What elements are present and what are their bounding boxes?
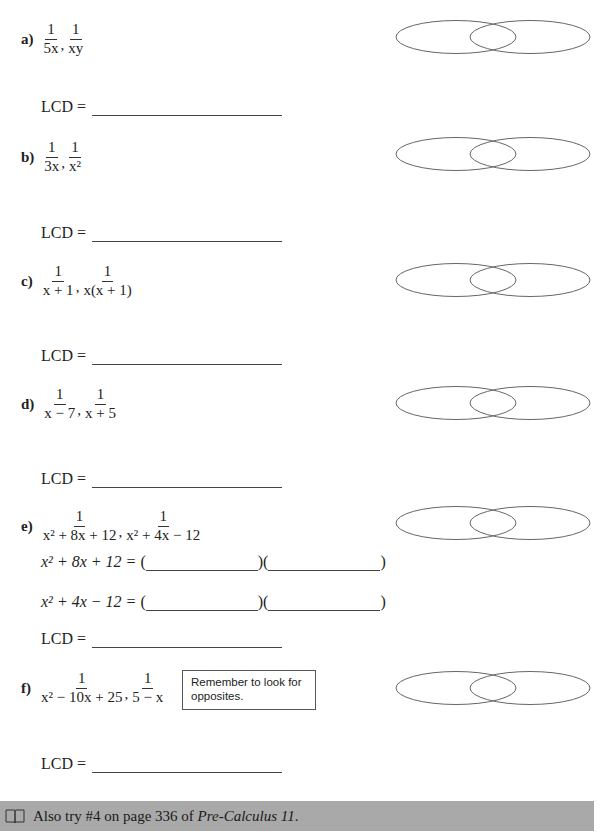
fraction: 1 x − 7 [42, 387, 77, 422]
numerator: 1 [76, 671, 88, 689]
numerator: 1 [69, 140, 81, 158]
problem-a: a) 1 5x , 1 xy [21, 22, 85, 57]
factor-expression: x² + 4x − 12 = [41, 593, 136, 611]
venn-diagram-b [393, 136, 593, 172]
book-title: Pre-Calculus 11 [198, 808, 295, 824]
comma: , [124, 686, 128, 703]
problem-label: e) [21, 518, 33, 535]
factor-blank-1[interactable] [146, 596, 258, 611]
close-paren: ) [380, 553, 385, 571]
hint-box: Remember to look for opposites. [182, 670, 316, 710]
lcd-answer-blank[interactable] [92, 473, 282, 488]
denominator: 5x [42, 40, 61, 57]
denominator: 3x [42, 158, 61, 175]
factorization-row-1: x² + 8x + 12 = ( )( ) [41, 553, 386, 571]
lcd-row-c: LCD = [41, 347, 282, 365]
mid-paren: )( [258, 553, 269, 571]
fraction: 1 x² + 8x + 12 [41, 509, 119, 544]
problem-label: c) [21, 273, 33, 290]
denominator: x + 1 [41, 282, 76, 299]
venn-diagram-e [393, 505, 593, 541]
fraction: 1 x(x + 1) [81, 264, 133, 299]
numerator: 1 [54, 387, 66, 405]
lcd-answer-blank[interactable] [92, 227, 282, 242]
problem-f: f) 1 x² − 10x + 25 , 1 5 − x [21, 671, 165, 706]
numerator: 1 [95, 387, 107, 405]
denominator: xy [66, 40, 85, 57]
lcd-label: LCD = [41, 98, 86, 116]
denominator: 5 − x [130, 689, 165, 706]
problem-b: b) 1 3x , 1 x² [21, 140, 83, 175]
fraction: 1 x² [67, 140, 83, 175]
denominator: x² + 4x − 12 [124, 527, 202, 544]
problem-label: f) [21, 680, 31, 697]
book-icon [5, 808, 25, 824]
problem-c: c) 1 x + 1 , 1 x(x + 1) [21, 264, 134, 299]
denominator: x − 7 [42, 405, 77, 422]
factor-blank-1[interactable] [146, 556, 258, 571]
close-paren: ) [380, 593, 385, 611]
factor-blank-2[interactable] [268, 556, 380, 571]
footer-text-prefix: Also try #4 on page 336 of [33, 808, 198, 824]
footer-text: Also try #4 on page 336 of Pre-Calculus … [33, 808, 298, 825]
numerator: 1 [45, 22, 57, 40]
comma: , [76, 279, 80, 296]
fraction: 1 x + 5 [83, 387, 118, 422]
factorization-row-2: x² + 4x − 12 = ( )( ) [41, 593, 386, 611]
fraction: 1 x + 1 [41, 264, 76, 299]
problem-label: b) [21, 149, 34, 166]
lcd-label: LCD = [41, 224, 86, 242]
lcd-answer-blank[interactable] [92, 101, 282, 116]
venn-diagram-d [393, 385, 593, 421]
denominator: x² [67, 158, 83, 175]
footer-text-suffix: . [295, 808, 299, 824]
lcd-answer-blank[interactable] [92, 758, 282, 773]
comma: , [61, 155, 65, 172]
lcd-row-d: LCD = [41, 470, 282, 488]
lcd-row-b: LCD = [41, 224, 282, 242]
lcd-row-e: LCD = [41, 630, 282, 648]
factor-blank-2[interactable] [268, 596, 380, 611]
problem-label: d) [21, 396, 34, 413]
numerator: 1 [158, 509, 170, 527]
denominator: x² + 8x + 12 [41, 527, 119, 544]
comma: , [61, 37, 65, 54]
fraction: 1 3x [42, 140, 61, 175]
denominator: x + 5 [83, 405, 118, 422]
footer-reference-band: Also try #4 on page 336 of Pre-Calculus … [0, 801, 594, 831]
denominator: x² − 10x + 25 [39, 689, 124, 706]
fraction: 1 x² + 4x − 12 [124, 509, 202, 544]
lcd-label: LCD = [41, 470, 86, 488]
numerator: 1 [46, 140, 58, 158]
fraction: 1 x² − 10x + 25 [39, 671, 124, 706]
problem-label: a) [21, 31, 34, 48]
denominator: x(x + 1) [81, 282, 133, 299]
lcd-answer-blank[interactable] [92, 350, 282, 365]
problem-d: d) 1 x − 7 , 1 x + 5 [21, 387, 118, 422]
numerator: 1 [74, 509, 86, 527]
lcd-answer-blank[interactable] [92, 633, 282, 648]
mid-paren: )( [258, 593, 269, 611]
factor-expression: x² + 8x + 12 = [41, 553, 136, 571]
lcd-label: LCD = [41, 347, 86, 365]
fraction: 1 xy [66, 22, 85, 57]
comma: , [77, 402, 81, 419]
numerator: 1 [70, 22, 82, 40]
problem-e: e) 1 x² + 8x + 12 , 1 x² + 4x − 12 [21, 509, 202, 544]
venn-diagram-f [393, 670, 593, 706]
venn-diagram-a [393, 19, 593, 55]
numerator: 1 [142, 671, 154, 689]
venn-diagram-c [393, 262, 593, 298]
fraction: 1 5 − x [130, 671, 165, 706]
fraction: 1 5x [42, 22, 61, 57]
lcd-label: LCD = [41, 630, 86, 648]
lcd-label: LCD = [41, 755, 86, 773]
comma: , [119, 524, 123, 541]
lcd-row-f: LCD = [41, 755, 282, 773]
lcd-row-a: LCD = [41, 98, 282, 116]
numerator: 1 [102, 264, 114, 282]
numerator: 1 [52, 264, 64, 282]
